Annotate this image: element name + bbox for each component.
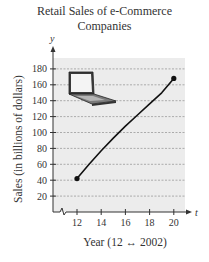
y-tick-label: 160 — [32, 79, 47, 90]
y-tick-label: 60 — [37, 159, 47, 170]
endpoint-marker — [74, 176, 79, 181]
x-tick-label: 12 — [72, 217, 82, 228]
y-tick-label: 120 — [32, 111, 47, 122]
x-tick-label: 16 — [120, 217, 130, 228]
endpoint-marker — [171, 76, 176, 81]
y-tick-label: 80 — [37, 143, 47, 154]
y-axis-arrow-icon — [51, 46, 56, 52]
x-tick-label: 20 — [169, 217, 179, 228]
y-tick-label: 140 — [32, 95, 47, 106]
y-tick-label: 40 — [37, 175, 47, 186]
y-tick-label: 100 — [32, 127, 47, 138]
y-tick-label: 180 — [32, 63, 47, 74]
x-tick-label: 14 — [96, 217, 106, 228]
y-axis-variable: y — [49, 33, 55, 44]
chart-plot: 20406080100120140160180yt1214161820 — [0, 0, 209, 262]
x-axis-arrow-icon — [186, 210, 192, 215]
x-axis-variable: t — [195, 207, 198, 218]
y-tick-label: 20 — [37, 191, 47, 202]
x-tick-label: 18 — [145, 217, 155, 228]
